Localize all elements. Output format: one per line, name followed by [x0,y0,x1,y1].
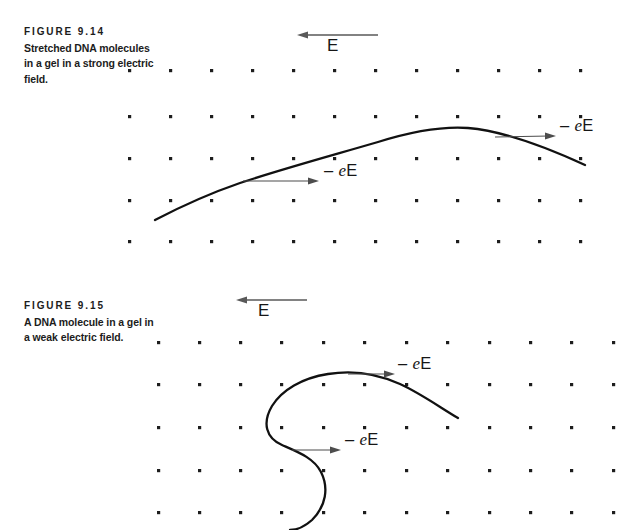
dna-chain-curve [155,128,585,220]
force-label-upper: – eE [560,116,594,136]
electric-field-arrow [236,297,307,304]
gel-grid-row [128,115,582,118]
gel-grid-row [157,511,615,514]
force-label-upper: – eE [398,354,432,374]
gel-grid-row [157,469,615,472]
gel-grid-row [128,240,582,243]
figure-9-15-graphic [0,278,642,530]
figure-page: FIGURE 9.14 Stretched DNA molecules in a… [0,0,642,530]
gel-grid-row [157,383,615,386]
figure-9-14-graphic [0,0,642,278]
gel-obstacle-grid [128,69,582,243]
dna-chain-curve [267,372,458,530]
figure-9-15: FIGURE 9.15 A DNA molecule in a gel in a… [0,278,642,530]
field-label-E: E [327,36,338,56]
field-label-E: E [258,301,269,321]
gel-grid-row [128,157,582,160]
gel-grid-row [157,341,615,344]
figure-9-14: FIGURE 9.14 Stretched DNA molecules in a… [0,0,642,278]
gel-grid-row [128,69,582,72]
force-label-lower: – eE [324,161,358,181]
gel-grid-row [157,426,615,429]
gel-obstacle-grid [157,341,615,514]
force-label-lower: – eE [345,430,379,450]
